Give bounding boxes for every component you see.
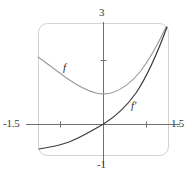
y-axis-min-label: -1 bbox=[97, 158, 106, 170]
plot-canvas bbox=[0, 0, 190, 179]
x-axis-min-label: -1.5 bbox=[3, 117, 20, 129]
function-graph-figure: 3 -1.5 1.5 -1 f f' bbox=[0, 0, 190, 179]
x-axis-max-label: 1.5 bbox=[171, 117, 184, 129]
curve-label-f-prime: f' bbox=[131, 99, 136, 111]
curve-label-f: f bbox=[63, 61, 66, 73]
y-axis-max-label: 3 bbox=[99, 6, 104, 18]
